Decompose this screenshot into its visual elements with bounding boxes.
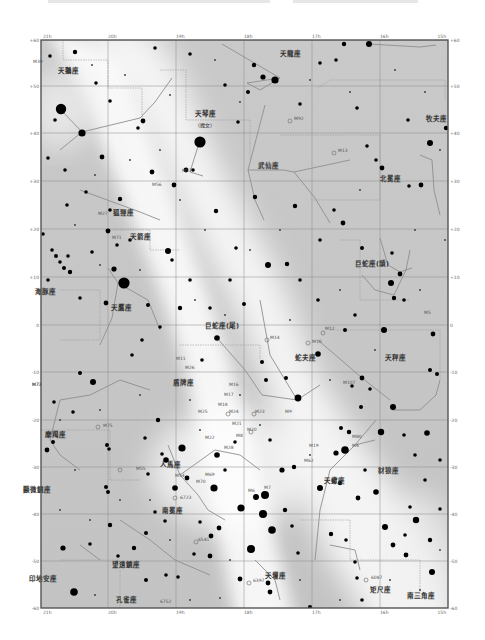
constellation-label: 孔雀座 bbox=[116, 595, 137, 604]
dec-tick-right: +10 bbox=[450, 275, 460, 280]
constellation-label: 武仙座 bbox=[258, 161, 279, 170]
dec-tick-right: +60 bbox=[450, 38, 460, 43]
deep-sky-label: 6723 bbox=[180, 495, 192, 500]
deep-sky-label: M19 bbox=[309, 443, 319, 448]
deep-sky-label: M20 bbox=[247, 427, 257, 432]
ra-tick-top: 19h bbox=[176, 34, 185, 39]
dec-tick-right: -10 bbox=[450, 370, 457, 375]
star-chart: M39M92M13M57M56M27M71M5M12M14M10M11M26M1… bbox=[0, 0, 485, 640]
constellation-label: 盾牌座 bbox=[173, 378, 194, 387]
ra-tick-bottom: 16h bbox=[380, 610, 389, 615]
deep-sky-label: M75 bbox=[103, 423, 113, 428]
deep-sky-label: M9 bbox=[285, 409, 292, 414]
deep-sky-label: M25 bbox=[198, 409, 208, 414]
dec-tick-right: -20 bbox=[450, 418, 457, 423]
deep-sky-label: 6397 bbox=[253, 578, 265, 583]
deep-sky-label: M13 bbox=[338, 148, 348, 153]
deep-sky-label: M62 bbox=[304, 458, 314, 463]
ra-tick-bottom: 20h bbox=[108, 610, 117, 615]
deep-sky-label: M28 bbox=[224, 445, 234, 450]
dec-tick-left: +20 bbox=[30, 227, 40, 232]
deep-sky-label: M4 bbox=[352, 443, 359, 448]
deep-sky-label: M71 bbox=[112, 235, 122, 240]
constellation-label: 望遠鏡座 bbox=[112, 560, 140, 569]
deep-sky-label: M24 bbox=[229, 409, 239, 414]
dec-tick-right: -30 bbox=[450, 465, 457, 470]
ra-tick-top: 16h bbox=[380, 34, 389, 39]
deep-sky-label: M56 bbox=[152, 182, 162, 187]
ra-tick-bottom: 19h bbox=[176, 610, 185, 615]
ra-tick-top: 18h bbox=[244, 34, 253, 39]
deep-sky-label: M16 bbox=[229, 382, 239, 387]
deep-sky-label: M7 bbox=[264, 485, 271, 490]
deep-sky-label: M80 bbox=[352, 434, 362, 439]
deep-sky-label: M17 bbox=[224, 392, 234, 397]
deep-sky-label: M57 bbox=[182, 168, 192, 173]
dec-tick-left: +50 bbox=[30, 84, 40, 89]
dec-tick-right: +30 bbox=[450, 179, 460, 184]
constellation-label: 摩羯座 bbox=[45, 430, 66, 439]
dec-tick-left: +60 bbox=[30, 38, 40, 43]
constellation-label: 人馬座 bbox=[160, 460, 181, 469]
dec-tick-left: +10 bbox=[30, 275, 40, 280]
constellation-label: 天鷹座 bbox=[111, 303, 132, 312]
constellation-label: (織女) bbox=[198, 122, 212, 129]
dec-tick-left: +40 bbox=[30, 131, 40, 136]
deep-sky-label: M14 bbox=[270, 335, 280, 340]
deep-sky-label: M54 bbox=[175, 473, 185, 478]
constellation-label: 狐狸座 bbox=[113, 208, 134, 217]
deep-sky-label: 6752 bbox=[160, 599, 172, 604]
constellation-label: 矩尺座 bbox=[369, 585, 391, 594]
constellation-label: 天琴座 bbox=[195, 109, 216, 118]
dec-tick-left: -50 bbox=[32, 559, 39, 564]
constellation-label: 顯微鏡座 bbox=[23, 485, 51, 494]
dec-tick-left: -40 bbox=[32, 512, 39, 517]
ra-tick-bottom: 21h bbox=[43, 610, 52, 615]
dec-tick-right: +20 bbox=[450, 227, 460, 232]
constellation-label: 印地安座 bbox=[29, 574, 57, 583]
ra-tick-top: 15h bbox=[437, 34, 446, 39]
dec-tick-right: +40 bbox=[450, 131, 460, 136]
constellation-label: 南三角座 bbox=[407, 591, 435, 600]
constellation-label: 北冕座 bbox=[380, 174, 401, 183]
deep-sky-label: 6087 bbox=[371, 575, 383, 580]
constellation-label: 天秤座 bbox=[385, 353, 406, 362]
constellation-label: 豺狼座 bbox=[377, 466, 399, 475]
deep-sky-label: M23 bbox=[255, 409, 265, 414]
deep-sky-label: M69 bbox=[205, 472, 215, 477]
ra-tick-bottom: 15h bbox=[437, 610, 446, 615]
deep-sky-label: M8 bbox=[236, 433, 243, 438]
deep-sky-label: M107 bbox=[343, 380, 356, 385]
constellation-label: 南冕座 bbox=[162, 506, 183, 515]
deep-sky-label: M26 bbox=[185, 365, 195, 370]
deep-sky-label: M70 bbox=[196, 479, 206, 484]
deep-sky-label: M22 bbox=[205, 435, 215, 440]
ra-tick-top: 17h bbox=[312, 34, 321, 39]
constellation-label: 天龍座 bbox=[280, 49, 301, 58]
constellation-label: 巨蛇座(頭) bbox=[355, 259, 389, 268]
deep-sky-label: M10 bbox=[312, 339, 322, 344]
dec-tick-right: 0 bbox=[450, 323, 453, 328]
deep-sky-label: M5 bbox=[424, 310, 431, 315]
dec-tick-left: -60 bbox=[32, 606, 39, 611]
constellation-label: 海豚座 bbox=[35, 287, 56, 296]
constellation-label: 蛇夫座 bbox=[295, 353, 316, 362]
dec-tick-left: -20 bbox=[32, 418, 39, 423]
deep-sky-label: M27 bbox=[98, 211, 108, 216]
constellation-label: 天箭座 bbox=[130, 232, 151, 241]
ra-tick-bottom: 18h bbox=[244, 610, 253, 615]
deep-sky-label: M21 bbox=[232, 421, 242, 426]
deep-sky-label: M12 bbox=[325, 326, 335, 331]
dec-tick-left: +30 bbox=[30, 179, 40, 184]
constellation-label: 天壇座 bbox=[265, 571, 286, 580]
dec-tick-right: +50 bbox=[450, 84, 460, 89]
dec-tick-right: -40 bbox=[450, 512, 457, 517]
deep-sky-label: M11 bbox=[176, 356, 186, 361]
dec-tick-left: 0 bbox=[36, 323, 39, 328]
deep-sky-label: M73 bbox=[32, 382, 42, 387]
deep-sky-label: M6 bbox=[248, 488, 255, 493]
constellation-label: 天鵝座 bbox=[58, 66, 79, 75]
deep-sky-label: M92 bbox=[294, 116, 304, 121]
deep-sky-label: 6541 bbox=[198, 537, 210, 542]
deep-sky-label: M18 bbox=[218, 402, 228, 407]
